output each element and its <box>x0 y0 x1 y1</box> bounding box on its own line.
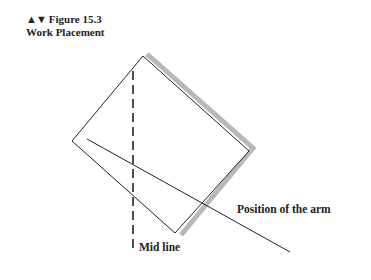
arm-position-label: Position of the arm <box>237 203 331 215</box>
work-sheet <box>72 56 249 233</box>
work-placement-diagram <box>0 0 371 280</box>
midline-label: Mid line <box>139 241 180 253</box>
